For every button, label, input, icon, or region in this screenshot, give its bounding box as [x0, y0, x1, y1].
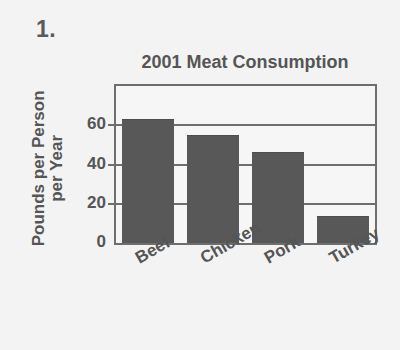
y-tick-label: 40: [66, 154, 106, 174]
plot-inner: [116, 86, 375, 243]
y-tick-label: 20: [66, 193, 106, 213]
y-axis-label-line-1: Pounds per Person: [29, 90, 48, 246]
question-number: 1.: [36, 16, 56, 43]
y-axis-label: Pounds per Person per Year: [30, 68, 67, 268]
bar-beef: [122, 119, 174, 243]
y-axis-label-line-2: per Year: [48, 68, 66, 268]
plot-area: [114, 84, 377, 245]
bar-chicken: [187, 135, 239, 243]
y-tick-label: 60: [66, 114, 106, 134]
chart-title: 2001 Meat Consumption: [110, 52, 380, 73]
y-tick-label: 0: [66, 232, 106, 252]
